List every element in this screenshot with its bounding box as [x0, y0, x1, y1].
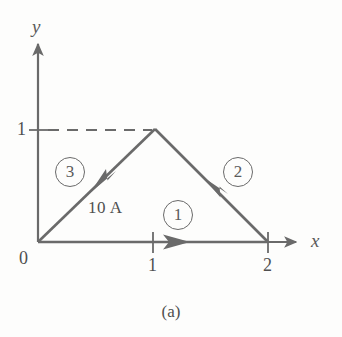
loop-segment-2-arrowhead [203, 177, 228, 198]
segment-badge-3-label: 3 [66, 162, 75, 182]
current-label: 10 A [88, 199, 123, 216]
segment-badge-2-label: 2 [234, 162, 243, 182]
diagram-canvas [0, 0, 342, 337]
y-tick-label-1: 1 [17, 120, 26, 138]
segment-badge-1: 1 [163, 200, 193, 230]
segment-badge-2: 2 [223, 157, 253, 187]
x-tick-label-1: 1 [148, 256, 157, 274]
y-axis-label: y [32, 17, 40, 36]
segment-badge-1-label: 1 [174, 205, 183, 225]
x-axis-label: x [311, 231, 319, 250]
segment-badge-3: 3 [55, 157, 85, 187]
figure-caption: (a) [0, 303, 342, 320]
loop-segment-3-arrowhead [90, 169, 116, 193]
x-tick-label-2: 2 [263, 256, 272, 274]
figure-container: y x 0 1 2 1 10 A 3 2 1 (a) [0, 0, 342, 337]
origin-label: 0 [19, 249, 28, 267]
